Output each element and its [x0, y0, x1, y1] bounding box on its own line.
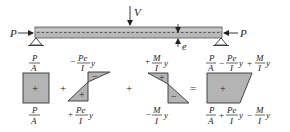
label-num: P	[208, 105, 215, 115]
label-suffix: y	[163, 58, 168, 68]
label-prefix: −	[247, 110, 252, 120]
label-prefix: +	[247, 58, 252, 68]
equals-operator: =	[190, 82, 196, 94]
label-suffix: y	[88, 110, 93, 120]
plus-sign: +	[159, 72, 165, 83]
label-den: I	[257, 116, 262, 126]
label-num: M	[255, 53, 264, 63]
label-prefix: −	[70, 56, 75, 66]
label-num: M	[152, 53, 161, 63]
v-label: V	[134, 6, 142, 18]
compression-triangle	[148, 73, 168, 84]
minus-sign: −	[92, 71, 98, 82]
label-num: P	[31, 53, 38, 63]
label-suffix: y	[90, 58, 95, 68]
stress-diagram: P P V e P A + P A + − Pe I y − +	[0, 0, 290, 132]
left-axial-force: P	[9, 27, 33, 39]
label-num: Pe	[226, 53, 237, 63]
left-p-label: P	[9, 27, 17, 39]
eccentric-stress-block: − Pe I y − + + Pe I y	[68, 53, 110, 126]
label-prefix: +	[219, 110, 224, 120]
label-suffix: y	[265, 110, 270, 120]
label-prefix: −	[146, 109, 151, 119]
axial-stress-block: P A + P A	[23, 53, 49, 126]
plus-operator: +	[126, 82, 132, 94]
tension-triangle	[68, 82, 88, 101]
label-prefix: +	[68, 109, 73, 119]
e-label: e	[182, 41, 187, 52]
plus-operator: +	[60, 82, 66, 94]
label-suffix: y	[265, 58, 270, 68]
minus-sign: −	[171, 91, 177, 102]
label-num: Pe	[75, 105, 86, 115]
resultant-stress-block: P A − Pe I y + M I y + P A + Pe I y − M …	[206, 53, 270, 126]
vertical-load: V	[130, 6, 142, 25]
label-prefix: −	[219, 58, 224, 68]
label-den: I	[78, 116, 83, 126]
resultant-trapezoid	[207, 73, 252, 103]
plus-sign: +	[220, 83, 226, 94]
label-prefix: +	[145, 56, 150, 66]
plus-sign: +	[32, 82, 38, 94]
label-den: I	[229, 63, 234, 73]
right-support-icon	[213, 38, 229, 46]
label-num: Pe	[226, 105, 237, 115]
label-den: A	[207, 63, 214, 73]
label-den: I	[154, 116, 159, 126]
label-num: Pe	[77, 53, 88, 63]
label-num: M	[255, 105, 264, 115]
moment-stress-block: + M I y + − − M I y	[145, 53, 189, 126]
label-den: I	[229, 116, 234, 126]
right-p-label: P	[239, 27, 247, 39]
label-suffix: y	[163, 110, 168, 120]
label-den: I	[257, 63, 262, 73]
plus-sign: +	[79, 89, 85, 100]
label-den: A	[207, 116, 214, 126]
right-axial-force: P	[224, 27, 247, 39]
label-den: A	[30, 63, 37, 73]
label-num: P	[208, 53, 215, 63]
label-num: P	[31, 105, 38, 115]
label-den: I	[80, 63, 85, 73]
beam	[35, 27, 222, 38]
left-support-icon	[28, 38, 44, 46]
label-den: A	[30, 116, 37, 126]
label-num: M	[152, 105, 161, 115]
label-suffix: y	[238, 58, 243, 68]
label-suffix: y	[238, 110, 243, 120]
